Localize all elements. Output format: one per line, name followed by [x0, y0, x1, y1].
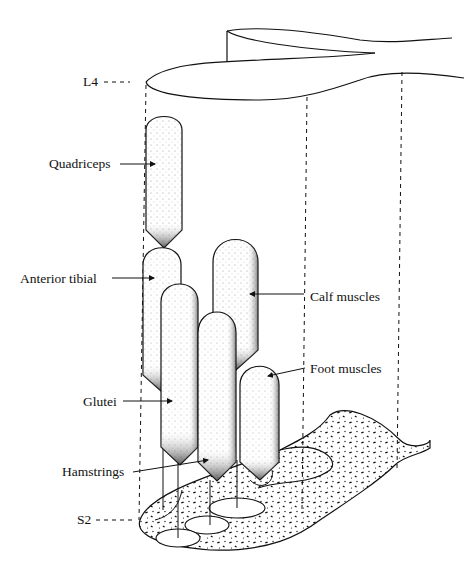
column-hamstrings: [198, 312, 236, 481]
label-calf-muscles: Calf muscles: [310, 290, 380, 304]
column-quadriceps: [146, 117, 182, 249]
label-s2: S2: [77, 513, 91, 527]
label-quadriceps: Quadriceps: [49, 157, 110, 171]
label-anterior-tibial: Anterior tibial: [20, 272, 97, 286]
cord-top-section: [146, 29, 464, 100]
label-hamstrings: Hamstrings: [62, 465, 124, 479]
label-foot-muscles: Foot muscles: [310, 362, 382, 376]
column-glutei: [161, 284, 198, 465]
column-foot-muscles: [240, 366, 279, 480]
spinal-cord-diagram: [0, 0, 464, 583]
label-l4: L4: [83, 75, 98, 89]
label-glutei: Glutei: [83, 395, 117, 409]
